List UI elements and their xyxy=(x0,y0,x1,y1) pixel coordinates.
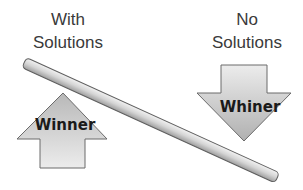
whiner-label: Whiner xyxy=(210,98,290,116)
winner-label: Winner xyxy=(25,116,105,134)
no-solutions-label: No Solutions xyxy=(197,8,297,54)
no-solutions-line2: Solutions xyxy=(197,31,297,54)
no-solutions-line1: No xyxy=(197,8,297,31)
with-solutions-line2: Solutions xyxy=(18,31,118,54)
with-solutions-line1: With xyxy=(18,8,118,31)
with-solutions-label: With Solutions xyxy=(18,8,118,54)
diagram-canvas: With Solutions No Solutions Winner Whine… xyxy=(0,0,303,190)
